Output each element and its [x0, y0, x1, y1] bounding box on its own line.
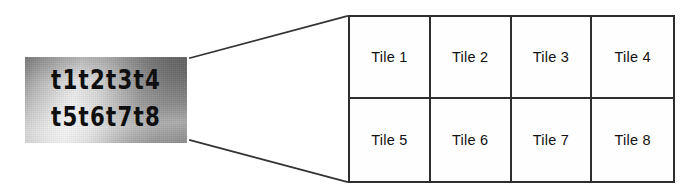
tile-cell: Tile 1 [350, 17, 431, 99]
connector-line-bottom [190, 140, 347, 182]
tile-grid: Tile 1 Tile 2 Tile 3 Tile 4 Tile 5 Tile … [348, 15, 675, 183]
tile-label: Tile 7 [533, 132, 569, 148]
tile-cell: Tile 3 [512, 17, 593, 99]
connector-line-top [190, 16, 347, 58]
tile-cell: Tile 7 [512, 99, 593, 181]
tile-label: Tile 4 [615, 49, 651, 65]
tile-label: Tile 8 [615, 132, 651, 148]
tile-cell: Tile 6 [431, 99, 512, 181]
tile-label: Tile 3 [533, 49, 569, 65]
tile-label: Tile 5 [371, 132, 407, 148]
tile-cell: Tile 2 [431, 17, 512, 99]
tile-label: Tile 2 [452, 49, 488, 65]
tile-cell: Tile 4 [592, 17, 673, 99]
tile-cell: Tile 5 [350, 99, 431, 181]
tile-segmentation-diagram: t1t2t3t4 t5t6t7t8 Tile 1 Tile 2 Tile 3 T… [0, 0, 692, 195]
tile-label: Tile 1 [371, 49, 407, 65]
tile-label: Tile 6 [452, 132, 488, 148]
tile-cell: Tile 8 [592, 99, 673, 181]
